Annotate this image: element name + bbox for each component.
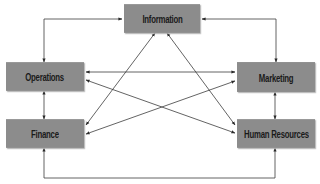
node-operations: Operations [6,62,84,91]
node-information-label: Information [142,12,182,25]
connector-information-marketing [202,19,276,62]
connector-information-finance [86,33,155,125]
node-human-resources-label: Human Resources [244,127,309,140]
connector-operations-human-resources [86,80,235,133]
node-marketing: Marketing [237,62,315,92]
connector-information-operations [44,19,122,62]
node-marketing-label: Marketing [259,71,294,84]
node-information: Information [124,4,200,33]
node-operations-label: Operations [26,70,65,83]
organization-flow-diagram: Information Operations Marketing Finance… [0,0,320,184]
connector-information-human-resources [167,33,235,125]
connector-finance-marketing [86,81,235,134]
node-human-resources: Human Resources [237,119,315,148]
connector-finance-human-resources [44,148,275,178]
node-finance: Finance [6,119,84,148]
node-finance-label: Finance [31,127,59,140]
